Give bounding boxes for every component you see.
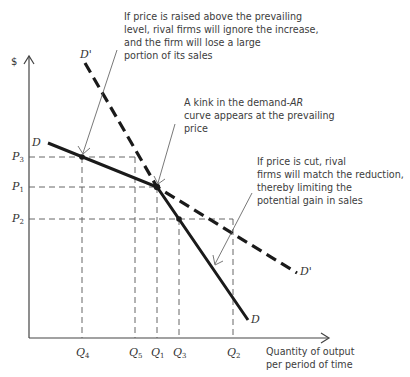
annotation-price-cut: If price is cut, rival firms will match … [257, 155, 404, 207]
d-curve-label-bottom: D [251, 313, 260, 326]
point-kink [154, 184, 160, 190]
annotation-raise-line4: portion of its sales [124, 49, 319, 62]
annotation-arrows [78, 50, 252, 265]
annotation-kink-line1-text: A kink in the demand- [184, 97, 290, 108]
d-prime-label-bottom: D' [300, 265, 312, 278]
quantity-tick-q4-sub: 4 [85, 352, 89, 360]
cut-arrow-line [215, 193, 252, 264]
quantity-tick-q1-name: Q [151, 346, 160, 359]
point-p3-q4 [79, 154, 85, 160]
annotation-cut-line2: firms will match the reduction, [257, 168, 404, 181]
x-axis-label: Quantity of output per period of time [266, 345, 354, 371]
quantity-tick-q4: Q4 [76, 346, 90, 360]
quantity-tick-q3-sub: 3 [182, 352, 186, 360]
quantity-tick-q5-sub: 5 [138, 352, 142, 360]
price-tick-p2: P2 [12, 212, 24, 226]
annotation-price-raised: If price is raised above the prevailing … [124, 10, 319, 62]
price-tick-p2-sub: 2 [19, 218, 23, 226]
kink-arrow-line [158, 124, 175, 183]
quantity-tick-q4-name: Q [76, 346, 85, 359]
quantity-tick-q2-name: Q [227, 346, 236, 359]
quantity-tick-q1: Q1 [151, 346, 165, 360]
price-tick-p1: P1 [12, 180, 24, 194]
quantity-tick-q2-sub: 2 [236, 352, 240, 360]
quantity-tick-q3-name: Q [173, 346, 182, 359]
annotation-cut-line3: thereby limiting the [257, 181, 404, 194]
cut-arrow-head-icon [213, 255, 223, 265]
price-tick-p3: P3 [12, 150, 24, 164]
points [79, 154, 182, 222]
quantity-tick-q5: Q5 [129, 346, 143, 360]
quantity-tick-q2: Q2 [227, 346, 241, 360]
d-prime-label-top: D' [80, 48, 92, 61]
point-p2-q3 [176, 216, 182, 222]
annotation-kink-line2: curve appears at the prevailing [184, 109, 335, 122]
annotation-cut-line1: If price is cut, rival [257, 155, 404, 168]
x-axis-label-line1: Quantity of output [266, 345, 354, 358]
annotation-kink: A kink in the demand-AR curve appears at… [184, 96, 335, 135]
quantity-tick-q3: Q3 [173, 346, 187, 360]
y-axis-label: $ [11, 56, 17, 68]
annotation-raise-line3: and the firm will lose a large [124, 36, 319, 49]
quantity-tick-q1-sub: 1 [160, 352, 164, 360]
price-tick-p1-sub: 1 [19, 186, 23, 194]
annotation-kink-line3: price [184, 122, 335, 135]
x-axis-label-line2: per period of time [266, 358, 354, 371]
price-guides [29, 157, 233, 219]
annotation-kink-line1: A kink in the demand-AR [184, 96, 335, 109]
d-curve-label-top: D [32, 136, 41, 149]
price-tick-p3-sub: 3 [19, 156, 23, 164]
annotation-kink-ar: AR [290, 97, 303, 108]
annotation-raise-line1: If price is raised above the prevailing [124, 10, 319, 23]
quantity-tick-q5-name: Q [129, 346, 138, 359]
annotation-raise-line2: level, rival firms will ignore the incre… [124, 23, 319, 36]
annotation-cut-line4: potential gain in sales [257, 194, 404, 207]
